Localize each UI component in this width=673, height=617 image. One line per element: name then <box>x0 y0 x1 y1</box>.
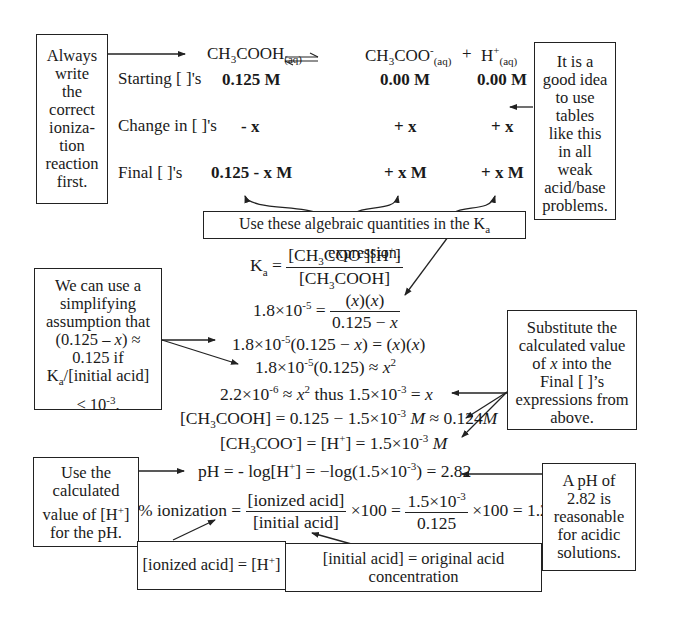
note-ionization-first: Alwayswritethecorrectioniza-tionreaction… <box>36 34 108 204</box>
note-simplifying-text: We can use asimplifyingassumption that(0… <box>46 276 150 414</box>
ice-final-acetate: + x M <box>384 163 427 183</box>
ice-change-acetate: + x <box>394 117 416 137</box>
note-ph-reasonable-text: A pH of2.82 isreasonablefor acidicsoluti… <box>554 471 625 562</box>
equation-step3: 1.8×10-5(0.125) ≈ x2 <box>255 356 396 378</box>
equation-step4: 2.2×10-6 ≈ x2 thus 1.5×10-3 = x <box>220 383 433 405</box>
ice-label-starting: Starting [ ]'s <box>118 69 201 89</box>
ice-change-h: + x <box>491 117 513 137</box>
note-tables-tip-text: It is agood ideato usetableslike thisin … <box>542 52 608 215</box>
note-ionized-acid-text: [ionized acid] = [H+] <box>143 555 281 574</box>
ice-label-change: Change in [ ]'s <box>118 116 217 136</box>
note-ionized-acid: [ionized acid] = [H+] <box>137 541 286 590</box>
note-ionization-first-text: Alwayswritethecorrectioniza-tionreaction… <box>45 46 98 191</box>
plus-sign: + <box>462 44 472 64</box>
note-ka-expression: Use these algebraic quantities in the Ka… <box>203 211 526 239</box>
ka-definition: Ka = [CH3COO-][H+][CH3COOH] <box>250 244 403 291</box>
note-initial-acid-text: [initial acid] = original acidconcentrat… <box>323 549 505 586</box>
note-use-h: Use thecalculatedvalue of [H+]for the pH… <box>33 457 139 547</box>
note-substitute-text: Substitute thecalculated valueof x into … <box>515 318 628 427</box>
ice-start-acid: 0.125 M <box>222 70 281 90</box>
reactant: CH3COOH(aq) <box>207 44 302 65</box>
product-hydrogen-ion: H+(aq) <box>481 44 517 67</box>
equation-percent-ionization: % ionization = [ionized acid][initial ac… <box>138 490 563 534</box>
equation-step5: [CH3COOH] = 0.125 − 1.5×10-3 M ≈ 0.124M <box>180 407 497 430</box>
equation-step1: 1.8×10-5 = (x)(x)0.125 − x <box>253 290 400 333</box>
note-substitute: Substitute thecalculated valueof x into … <box>507 310 637 430</box>
ice-final-h: + x M <box>481 163 524 183</box>
ice-change-acid: - x <box>241 117 259 137</box>
note-use-h-text: Use thecalculatedvalue of [H+]for the pH… <box>43 463 130 542</box>
equation-ph: pH = - log[H+] = −log(1.5×10-3) = 2.82 <box>198 460 471 482</box>
note-initial-acid: [initial acid] = original acidconcentrat… <box>285 543 542 592</box>
ice-label-final: Final [ ]'s <box>118 163 182 183</box>
note-ph-reasonable: A pH of2.82 isreasonablefor acidicsoluti… <box>542 463 636 571</box>
equation-step2: 1.8×10-5(0.125 − x) = (x)(x) <box>232 333 425 355</box>
ice-start-h: 0.00 M <box>477 70 527 90</box>
ice-start-acetate: 0.00 M <box>380 70 430 90</box>
ice-final-acid: 0.125 - x M <box>211 163 292 183</box>
equation-step6: [CH3COO-] = [H+] = 1.5×10-3 M <box>220 432 447 455</box>
note-tables-tip: It is agood ideato usetableslike thisin … <box>534 42 616 220</box>
note-simplifying: We can use asimplifyingassumption that(0… <box>34 268 162 410</box>
product-acetate: CH3COO-(aq) <box>365 44 451 67</box>
